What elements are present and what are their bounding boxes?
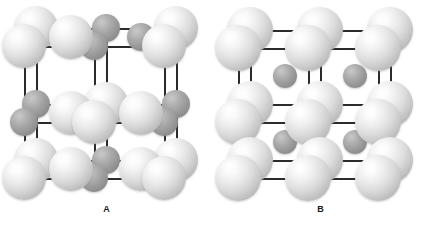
large-ion-sphere: [2, 24, 46, 68]
large-ion-sphere: [142, 24, 186, 68]
large-ion-sphere: [119, 91, 163, 135]
large-ion-sphere: [285, 25, 331, 71]
large-ion-sphere: [72, 100, 116, 144]
large-ion-sphere: [355, 155, 401, 201]
crystal-structure-figure: A B: [0, 0, 427, 237]
large-ion-sphere: [49, 147, 93, 191]
panel-b-label: B: [214, 203, 427, 215]
large-ion-sphere: [215, 155, 261, 201]
small-ion-sphere: [273, 64, 297, 88]
large-ion-sphere: [215, 25, 261, 71]
large-ion-sphere: [355, 25, 401, 71]
panel-a-label: A: [0, 203, 213, 215]
large-ion-sphere: [2, 156, 46, 200]
lattice-diagram-a: [0, 0, 213, 205]
large-ion-sphere: [49, 15, 93, 59]
panel-a: A: [0, 0, 213, 237]
panel-b: B: [214, 0, 427, 237]
large-ion-sphere: [142, 156, 186, 200]
small-ion-sphere: [343, 64, 367, 88]
large-ion-sphere: [285, 155, 331, 201]
small-ion-sphere: [10, 108, 38, 136]
edge-credit-text: [413, 62, 426, 140]
lattice-diagram-b: [214, 0, 427, 205]
